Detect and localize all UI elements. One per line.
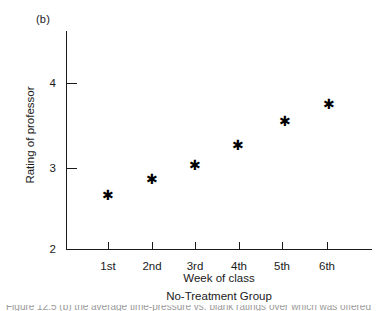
y-tick-label-4: 4 [50,76,56,91]
x-tick-1 [108,242,109,250]
x-tick-label-1st: 1st [100,260,115,272]
x-tick-2 [152,242,153,250]
y-tick-label-2: 2 [50,242,56,257]
data-point-week-1: ✱ [102,188,114,202]
x-tick-label-5th: 5th [274,260,290,272]
data-point-week-5: ✱ [279,114,291,128]
x-tick-label-2nd: 2nd [142,260,161,272]
caption-fragment: Figure 12.5 (b) the average time-pressur… [6,305,371,311]
y-tick-label-3: 3 [50,161,56,176]
y-tick-4: 4 [66,83,77,84]
y-axis-line [66,31,67,250]
x-tick-3 [195,242,196,250]
x-tick-6 [327,242,328,250]
y-tick-3: 3 [66,168,77,169]
caption-strip: Figure 12.5 (b) the average time-pressur… [0,305,392,311]
data-point-week-3: ✱ [189,158,201,172]
y-axis-title: Rating of professor [22,60,38,210]
x-tick-4 [239,242,240,250]
plot-area: 4 3 2 1st 2nd 3rd 4th 5th 6th ✱ ✱ ✱ ✱ ✱ … [66,31,372,250]
group-label: No-Treatment Group [66,290,372,302]
data-point-week-4: ✱ [232,138,244,152]
x-tick-label-3rd: 3rd [187,260,204,272]
data-point-week-6: ✱ [323,97,335,111]
y-axis-title-label: Rating of professor [24,86,36,183]
x-tick-label-4th: 4th [231,260,247,272]
figure-panel-b: (b) Rating of professor 4 3 2 1st 2nd 3r… [0,0,392,311]
x-tick-label-6th: 6th [319,260,335,272]
x-tick-5 [282,242,283,250]
data-point-week-2: ✱ [146,172,158,186]
panel-letter: (b) [36,13,50,25]
x-axis-title: Week of class [66,272,372,284]
